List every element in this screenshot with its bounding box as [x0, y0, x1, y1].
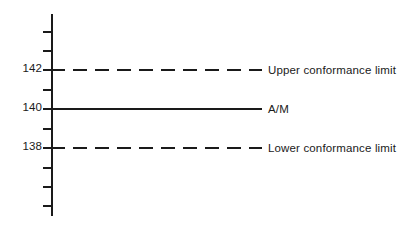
- axis-label-142: 142: [6, 63, 42, 75]
- axis-label-142-wrap: 142: [0, 63, 42, 75]
- upper-conformance-limit-label: Upper conformance limit: [268, 64, 396, 76]
- lower-conformance-limit-label: Lower conformance limit: [268, 142, 396, 154]
- axis-tick: [43, 167, 52, 169]
- am-label: A/M: [268, 103, 289, 115]
- axis-label-138-wrap: 138: [0, 141, 42, 153]
- axis-label-140: 140: [6, 102, 42, 114]
- axis-tick: [43, 89, 52, 91]
- axis-tick: [43, 205, 52, 207]
- axis-label-138: 138: [6, 141, 42, 153]
- axis-tick: [43, 128, 52, 130]
- lower-conformance-limit-line: [51, 147, 262, 149]
- conformance-limits-chart: 142 140 138 Upper conformance limit A/M …: [0, 0, 407, 231]
- axis-tick: [43, 31, 52, 33]
- axis-tick: [43, 186, 52, 188]
- axis-tick: [43, 50, 52, 52]
- am-line: [51, 108, 262, 110]
- axis-label-140-wrap: 140: [0, 102, 42, 114]
- upper-conformance-limit-line: [51, 69, 262, 71]
